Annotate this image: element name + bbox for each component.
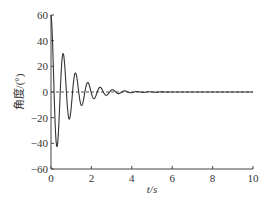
y-tick-label: 60 bbox=[37, 9, 49, 21]
angle-series-line bbox=[51, 15, 253, 147]
y-axis-label: 角度/(°) bbox=[12, 73, 26, 110]
y-tick-label: 0 bbox=[43, 86, 49, 98]
x-tick-label: 8 bbox=[210, 172, 216, 184]
y-tick-label: −20 bbox=[31, 112, 49, 124]
y-tick-label: −60 bbox=[31, 163, 49, 175]
x-tick-label: 2 bbox=[89, 172, 95, 184]
y-tick-label: −40 bbox=[31, 137, 49, 149]
x-tick-label: 4 bbox=[129, 172, 135, 184]
chart: 6040200−20−40−60 0246810 t/s 角度/(°) bbox=[0, 0, 274, 207]
x-tick-label: 10 bbox=[248, 172, 260, 184]
x-axis-label: t/s bbox=[147, 183, 157, 195]
x-tick-label: 0 bbox=[48, 172, 54, 184]
x-tick-label: 6 bbox=[169, 172, 175, 184]
y-tick-label: 40 bbox=[37, 35, 49, 47]
y-tick-label: 20 bbox=[37, 60, 49, 72]
